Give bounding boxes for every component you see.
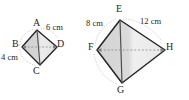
vertex-label-f: F (88, 42, 94, 52)
vertex-label-e: E (116, 4, 122, 14)
measure-label-12cm: 12 cm (140, 17, 161, 26)
large-kite-shape (97, 20, 165, 83)
measure-label-8cm: 8 cm (86, 19, 103, 28)
large-kite-svg (0, 0, 189, 100)
vertex-label-h: H (166, 42, 173, 52)
vertex-label-g: G (117, 85, 124, 95)
geometry-diagram-canvas: A B C D 6 cm 4 cm E F G H 8 cm 12 cm (0, 0, 189, 100)
large-kite-figure: E F G H 8 cm 12 cm (0, 0, 189, 100)
